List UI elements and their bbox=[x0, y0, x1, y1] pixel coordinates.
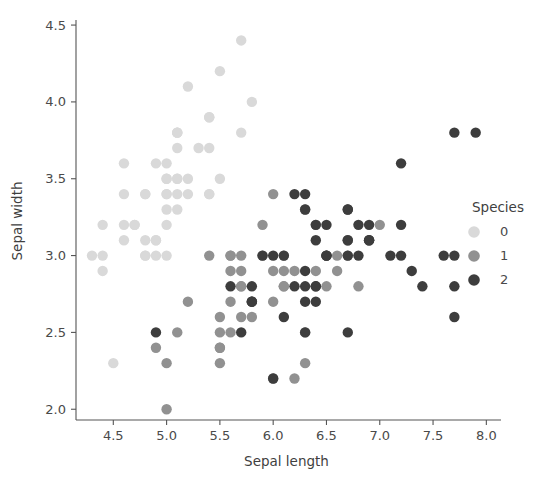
data-point bbox=[300, 358, 310, 368]
data-point bbox=[300, 204, 310, 214]
data-point bbox=[225, 250, 235, 260]
data-point bbox=[439, 250, 449, 260]
data-point bbox=[225, 296, 235, 306]
y-axis-ticks: 2.02.53.03.54.04.5 bbox=[45, 18, 76, 417]
data-point bbox=[449, 281, 459, 291]
data-point bbox=[417, 281, 427, 291]
data-point bbox=[204, 250, 214, 260]
x-tick-label: 6.0 bbox=[263, 428, 284, 443]
data-point bbox=[279, 250, 289, 260]
data-point bbox=[193, 143, 203, 153]
data-point bbox=[172, 174, 182, 184]
data-point bbox=[204, 143, 214, 153]
data-point bbox=[225, 327, 235, 337]
data-point bbox=[215, 327, 225, 337]
data-point bbox=[311, 281, 321, 291]
data-point bbox=[289, 373, 299, 383]
data-point bbox=[353, 250, 363, 260]
legend-marker-1 bbox=[468, 250, 480, 262]
data-point bbox=[161, 158, 171, 168]
data-point bbox=[97, 220, 107, 230]
y-tick-label: 2.5 bbox=[45, 325, 66, 340]
x-tick-label: 5.5 bbox=[210, 428, 231, 443]
data-point bbox=[268, 266, 278, 276]
data-point bbox=[161, 189, 171, 199]
data-point bbox=[364, 220, 374, 230]
data-point bbox=[353, 220, 363, 230]
data-point bbox=[449, 312, 459, 322]
data-point bbox=[311, 296, 321, 306]
data-point bbox=[172, 143, 182, 153]
x-tick-label: 7.5 bbox=[423, 428, 444, 443]
data-point bbox=[364, 235, 374, 245]
data-point bbox=[449, 127, 459, 137]
data-point bbox=[343, 235, 353, 245]
data-point bbox=[183, 81, 193, 91]
data-point bbox=[332, 250, 342, 260]
data-point bbox=[332, 266, 342, 276]
data-point bbox=[172, 189, 182, 199]
data-point bbox=[407, 266, 417, 276]
x-tick-label: 5.0 bbox=[156, 428, 177, 443]
data-point bbox=[247, 296, 257, 306]
data-point bbox=[204, 189, 214, 199]
data-point bbox=[236, 266, 246, 276]
legend-label-0: 0 bbox=[500, 224, 508, 239]
data-point bbox=[257, 250, 267, 260]
data-point bbox=[204, 112, 214, 122]
y-tick-label: 4.0 bbox=[45, 94, 66, 109]
data-point bbox=[268, 296, 278, 306]
legend-item-2[interactable]: 2 bbox=[468, 272, 508, 287]
data-point bbox=[279, 312, 289, 322]
data-point bbox=[470, 127, 480, 137]
data-point bbox=[247, 312, 257, 322]
data-point bbox=[396, 158, 406, 168]
x-axis-title: Sepal length bbox=[244, 453, 329, 469]
data-point bbox=[161, 404, 171, 414]
data-point bbox=[129, 220, 139, 230]
legend-title: Species bbox=[472, 199, 524, 215]
data-point bbox=[396, 220, 406, 230]
data-point bbox=[183, 174, 193, 184]
data-point bbox=[183, 189, 193, 199]
data-point bbox=[321, 220, 331, 230]
x-tick-label: 4.5 bbox=[103, 428, 124, 443]
data-point bbox=[236, 312, 246, 322]
data-point bbox=[236, 250, 246, 260]
data-point bbox=[140, 250, 150, 260]
data-point bbox=[119, 235, 129, 245]
data-point bbox=[172, 204, 182, 214]
data-point bbox=[215, 358, 225, 368]
legend: Species012 bbox=[468, 199, 524, 287]
data-point bbox=[279, 281, 289, 291]
data-point bbox=[268, 189, 278, 199]
data-point bbox=[268, 373, 278, 383]
axis-spines bbox=[76, 20, 501, 420]
data-point bbox=[161, 204, 171, 214]
data-point bbox=[375, 220, 385, 230]
data-point bbox=[268, 250, 278, 260]
data-point bbox=[161, 250, 171, 260]
series-1 bbox=[151, 189, 385, 415]
data-point bbox=[151, 343, 161, 353]
legend-item-1[interactable]: 1 bbox=[468, 248, 508, 263]
chart-figure: 4.55.05.56.06.57.07.58.0 2.02.53.03.54.0… bbox=[0, 0, 549, 483]
data-point bbox=[140, 189, 150, 199]
data-point bbox=[215, 312, 225, 322]
data-point bbox=[87, 250, 97, 260]
x-axis-ticks: 4.55.05.56.06.57.07.58.0 bbox=[103, 420, 497, 443]
x-tick-label: 6.5 bbox=[316, 428, 337, 443]
scatter-plot: 4.55.05.56.06.57.07.58.0 2.02.53.03.54.0… bbox=[0, 0, 549, 483]
data-point bbox=[247, 97, 257, 107]
data-point bbox=[300, 189, 310, 199]
data-point bbox=[343, 250, 353, 260]
x-tick-label: 7.0 bbox=[369, 428, 390, 443]
data-point bbox=[140, 235, 150, 245]
data-point bbox=[449, 250, 459, 260]
data-point bbox=[215, 343, 225, 353]
data-point bbox=[97, 266, 107, 276]
series-2 bbox=[151, 127, 481, 383]
data-point bbox=[183, 296, 193, 306]
legend-item-0[interactable]: 0 bbox=[468, 224, 508, 239]
data-point bbox=[151, 327, 161, 337]
